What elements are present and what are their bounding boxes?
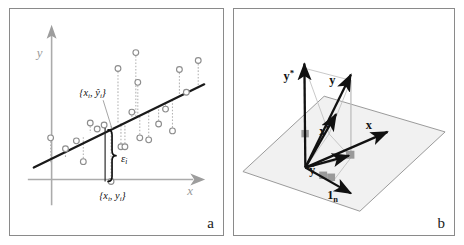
panel-a: y x {xi, ŷi} {xi, yi} εi a [9, 8, 224, 236]
x-axis [28, 174, 205, 186]
vector-label-y-star: y* [284, 68, 295, 83]
residual-label: εi [121, 152, 127, 166]
vector-label-x: x [366, 118, 373, 132]
vector-y-star [304, 64, 305, 168]
panel-b: y* y x* x ŷ 1n b [233, 8, 455, 236]
figure-root: y x {xi, ŷi} {xi, yi} εi a [0, 0, 464, 245]
regression-line [34, 84, 204, 167]
panel-b-label: b [438, 215, 446, 232]
vector-label-y-hat: ŷ [309, 163, 315, 177]
plane [243, 96, 445, 211]
panel-a-label: a [207, 215, 214, 232]
y-axis-label: y [35, 46, 43, 60]
x-axis-label: x [186, 184, 193, 198]
panel-b-canvas: y* y x* x ŷ 1n [234, 9, 454, 235]
fitted-point-label: {xi, ŷi} [79, 87, 106, 99]
vector-label-y: y [329, 73, 336, 87]
panel-a-canvas: y x {xi, ŷi} {xi, yi} εi [10, 9, 223, 235]
y-axis [47, 25, 57, 205]
observed-point-label: {xi, yi} [99, 190, 126, 202]
residual-brace [108, 130, 116, 182]
